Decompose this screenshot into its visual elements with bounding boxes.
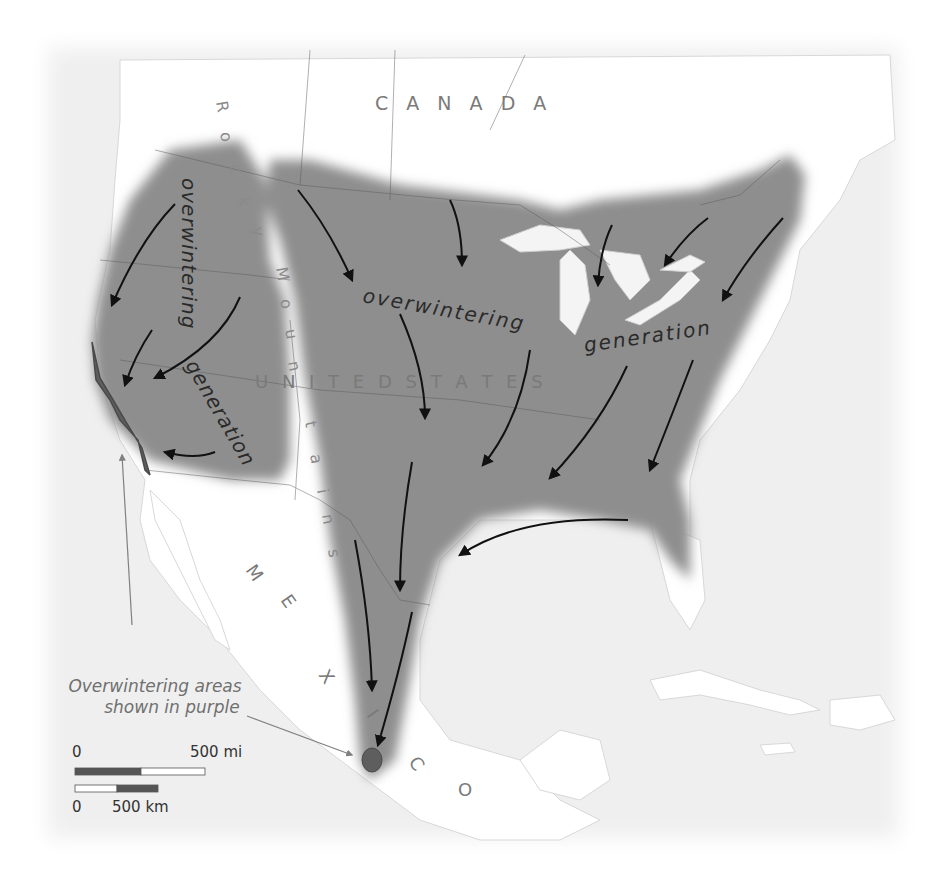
label-west-overwintering: overwintering [177, 178, 201, 330]
label-mexico-O: O [458, 779, 472, 800]
scale-km-zero: 0 [72, 798, 82, 816]
scale-km-bar-light [75, 785, 117, 792]
callout-line-1: Overwintering areas [68, 676, 241, 696]
monarch-migration-map: C A N A D A U N I T E D S T A T E S M E … [0, 0, 932, 883]
label-united-states: U N I T E D S T A T E S [255, 371, 547, 392]
scale-mi-zero: 0 [72, 743, 82, 761]
scale-mi-bar-dark [75, 768, 141, 775]
scale-km-bar-dark [117, 785, 158, 792]
mexico-overwintering-site [362, 748, 382, 772]
scale-mi-bar-light [141, 768, 205, 775]
scale-km-max: 500 km [112, 798, 169, 816]
scale-mi-max: 500 mi [190, 743, 242, 761]
label-canada: C A N A D A [375, 92, 552, 114]
callout-line-2: shown in purple [104, 697, 240, 717]
